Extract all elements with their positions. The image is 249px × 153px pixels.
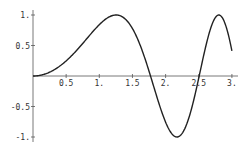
x-tick-label: 1. xyxy=(94,79,104,88)
y-ticks: 1.0.5-0.5-1. xyxy=(11,11,35,142)
x-tick-label: 1.5 xyxy=(125,79,140,88)
y-tick-label: 1. xyxy=(20,11,30,20)
axes xyxy=(33,10,238,142)
x-tick-label: 3. xyxy=(227,79,237,88)
y-tick-label: -1. xyxy=(16,133,30,142)
y-tick-label: -0.5 xyxy=(11,103,30,112)
x-tick-label: 0.5 xyxy=(59,79,74,88)
y-tick-label: 0.5 xyxy=(16,42,31,51)
x-tick-label: 2. xyxy=(161,79,171,88)
line-chart: 0.51.1.52.2.53. 1.0.5-0.5-1. xyxy=(0,0,249,153)
